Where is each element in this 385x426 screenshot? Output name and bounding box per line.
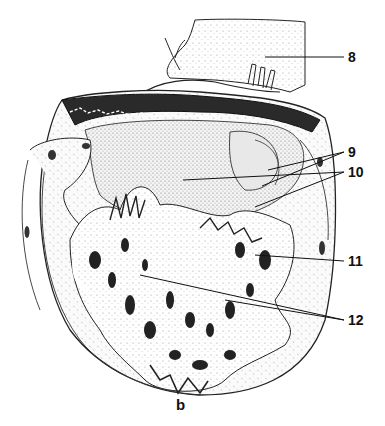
heart-drawing bbox=[0, 0, 385, 426]
label-12: 12 bbox=[348, 313, 364, 327]
heart-illustration bbox=[0, 0, 385, 426]
label-9: 9 bbox=[348, 145, 356, 159]
label-11: 11 bbox=[348, 254, 363, 268]
panel-caption: b bbox=[176, 396, 185, 413]
label-10: 10 bbox=[348, 165, 364, 179]
label-8: 8 bbox=[348, 50, 356, 64]
